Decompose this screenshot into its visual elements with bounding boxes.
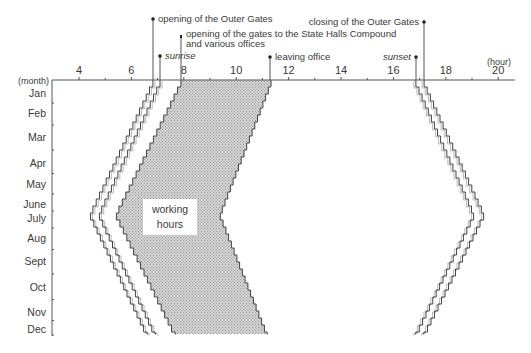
x-tick-label: 4 <box>76 64 82 76</box>
x-tick-label: 18 <box>440 64 452 76</box>
x-tick-label: 10 <box>230 64 242 76</box>
svg-text:closing of the Outer Gates: closing of the Outer Gates <box>309 16 420 27</box>
month-label: Mar <box>28 131 47 143</box>
x-tick-label: 14 <box>335 64 347 76</box>
svg-text:sunset: sunset <box>383 51 411 62</box>
working-label-line2: hours <box>157 218 183 230</box>
svg-text:opening of the Outer Gates: opening of the Outer Gates <box>158 13 273 24</box>
hour-unit-label: (hour) <box>487 57 511 67</box>
svg-text:leaving office: leaving office <box>275 51 330 62</box>
month-unit-label: (month) <box>18 76 49 86</box>
month-label: July <box>27 212 46 224</box>
month-label: Dec <box>27 323 46 335</box>
annotation-sunrise: sunrise <box>158 50 195 80</box>
working-label-line1: working <box>151 203 188 215</box>
x-tick-label: 12 <box>282 64 294 76</box>
series-line <box>415 80 474 334</box>
annotation-outer-gates-closing: closing of the Outer Gates <box>309 16 426 80</box>
month-label: Feb <box>28 107 46 119</box>
working-hours-label: working hours <box>143 199 197 235</box>
month-label: Jan <box>29 87 46 99</box>
svg-text:sunrise: sunrise <box>165 50 196 61</box>
svg-text:and various offices: and various offices <box>186 38 265 49</box>
month-label: Nov <box>27 306 46 318</box>
x-tick-label: 8 <box>181 64 187 76</box>
series-line <box>423 80 484 334</box>
month-label: June <box>23 198 46 210</box>
month-label: May <box>26 178 47 190</box>
annotation-leaving-office: leaving office <box>268 51 330 80</box>
x-tick-label: 6 <box>128 64 134 76</box>
month-label: Sept <box>24 255 46 267</box>
x-tick-label: 16 <box>387 64 399 76</box>
seasonal-hours-chart: working hours 468101214161820 (hour) Jan… <box>0 0 531 353</box>
month-label: Oct <box>30 281 46 293</box>
y-axis: JanFebMarAprMayJuneJulyAugSeptOctNovDec … <box>18 76 54 336</box>
month-label: Apr <box>30 157 47 169</box>
month-label: Aug <box>27 232 46 244</box>
